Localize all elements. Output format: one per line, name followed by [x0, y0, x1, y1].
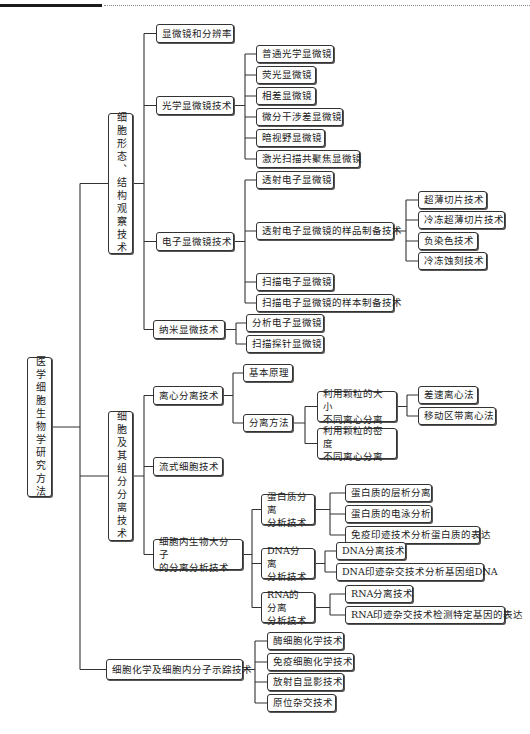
node-n2c3: RNA的分离 分析技术 [261, 592, 315, 623]
node-n2c: 细胞内生物大分子 的分离分析技术 [153, 539, 243, 570]
node-n2c2b: DNA印迹杂交技术分析基因组DNA [336, 563, 484, 581]
node-n2a2a2: 移动区带离心法 [418, 407, 496, 425]
node-n2c1b: 蛋白质的电泳分析 [345, 505, 432, 523]
node-n1: 细胞形态、结构观察技术 [108, 113, 133, 254]
node-n1d2: 扫描探针显微镜 [246, 335, 324, 353]
node-n2c2: DNA分离 分析技术 [261, 548, 315, 579]
connector-n1c [234, 180, 256, 303]
node-n2a2b: 利用颗粒的密度 不同离心分离 [317, 428, 397, 459]
node-n1b1: 普通光学显微镜 [256, 45, 334, 63]
node-root: 医学细胞生物学研究方法 [27, 357, 52, 497]
node-n1c1: 透射电子显微镜 [256, 171, 334, 189]
node-n1c2b: 冷冻超薄切片技术 [418, 211, 505, 229]
connector-n2c [243, 510, 261, 608]
node-n1c: 电子显微镜技术 [156, 232, 234, 251]
connector-n2c3 [315, 594, 345, 615]
node-n1c2d: 冷冻蚀刻技术 [418, 252, 487, 270]
node-n2c3b: RNA印迹杂交技术检测特定基因的表达 [345, 606, 505, 624]
node-n1d: 纳米显微技术 [153, 320, 225, 339]
connector-n2a2a [397, 395, 418, 416]
connector-n2 [133, 396, 153, 555]
connector-n2a [223, 373, 243, 423]
connector-n2c2 [315, 551, 336, 572]
node-n1b: 光学显微镜技术 [156, 96, 234, 115]
node-n1c2: 透射电子显微镜的样品制备技术 [256, 222, 394, 240]
node-n1c2c: 负染色技术 [418, 232, 478, 250]
node-n1c2a: 超薄切片技术 [418, 191, 487, 209]
node-n3a: 酶细胞化学技术 [267, 632, 344, 650]
connector-n1b [234, 54, 256, 159]
node-n3c: 放射自显影技术 [267, 673, 344, 691]
connector-n1 [133, 34, 156, 330]
node-n2b: 流式细胞技术 [153, 457, 223, 476]
connector-n2c1 [315, 493, 345, 535]
node-n1b2: 荧光显微镜 [256, 66, 316, 84]
node-n1b5: 暗视野显微镜 [256, 129, 325, 147]
node-n2a2a: 利用颗粒的大小 不同离心分离 [317, 391, 397, 422]
node-n2a1: 基本原理 [243, 364, 293, 382]
node-n3d: 原位杂交技术 [267, 694, 336, 712]
node-n2c1: 蛋白质分离 分析技术 [261, 494, 315, 525]
node-n2: 细胞及其组分分离技术 [108, 411, 133, 541]
node-n3: 细胞化学及细胞内分子示踪技术 [106, 659, 243, 680]
node-n2c1a: 蛋白质的层析分离 [345, 484, 432, 502]
connector-n1d [225, 323, 246, 344]
node-n2a2: 分离方法 [243, 414, 293, 432]
node-n2a: 离心分离技术 [153, 386, 223, 405]
connector-root [52, 184, 108, 670]
node-n3b: 免疫细胞化学技术 [267, 653, 354, 671]
node-n2c3a: RNA分离技术 [345, 585, 413, 603]
node-n1d1: 分析电子显微镜 [246, 314, 324, 332]
connector-n2a2 [293, 407, 317, 444]
node-n2c2a: DNA分离技术 [336, 542, 406, 560]
node-n1b4: 微分干涉差显微镜 [256, 108, 343, 126]
node-n1c4: 扫描电子显微镜的样本制备技术 [256, 294, 394, 312]
node-n1c3: 扫描电子显微镜 [256, 273, 334, 291]
node-n1b6: 激光扫描共聚焦显微镜 [256, 150, 360, 168]
node-n2a2a1: 差速离心法 [418, 386, 478, 404]
node-n1b3: 相差显微镜 [256, 87, 316, 105]
node-n1a: 显微镜和分辨率 [156, 24, 234, 43]
